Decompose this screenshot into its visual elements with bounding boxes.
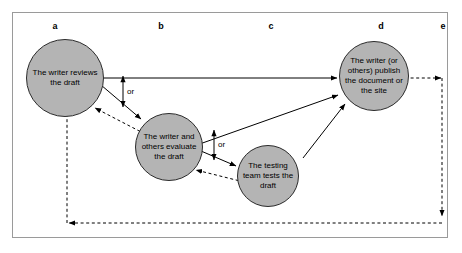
arrow-a-to-b	[101, 85, 141, 119]
arrow-b-to-d	[194, 95, 338, 146]
node-b-label: The writer and others evaluate the draft	[136, 132, 202, 162]
node-a-writer-reviews-draft[interactable]: The writer reviews the draft	[26, 39, 104, 117]
node-b-writer-and-others-evaluate[interactable]: The writer and others evaluate the draft	[135, 113, 203, 181]
diagram-canvas: a b c d e	[0, 0, 462, 253]
or-label-1: or	[127, 87, 134, 96]
node-c-label: The testing team tests the draft	[238, 161, 298, 191]
node-d-writer-publish[interactable]: The writer (or others) publish the docum…	[339, 41, 409, 111]
or-label-2: or	[218, 140, 225, 149]
node-a-label: The writer reviews the draft	[27, 68, 103, 88]
node-d-label: The writer (or others) publish the docum…	[340, 56, 408, 96]
node-c-testing-team-tests[interactable]: The testing team tests the draft	[237, 145, 299, 207]
arrow-c-to-d	[303, 104, 345, 158]
connector-layer	[0, 0, 462, 253]
arrow-b-to-a-dashed	[95, 108, 145, 134]
